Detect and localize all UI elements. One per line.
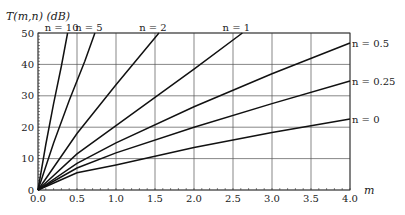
y-tick-label: 20: [21, 122, 34, 133]
x-tick-label: 2.5: [225, 193, 241, 204]
y-tick-label: 30: [21, 90, 34, 101]
series-label: n = 10: [45, 22, 79, 33]
axes: 0.00.51.01.52.02.53.03.54.001020304050: [21, 28, 358, 205]
y-axis-label: T(m,n) (dB): [6, 10, 70, 23]
series-line-2: [38, 33, 159, 190]
x-tick-label: 2.0: [186, 193, 202, 204]
x-tick-label: 4.0: [342, 193, 358, 204]
series-label: n = 5: [75, 22, 103, 33]
y-tick-label: 40: [21, 59, 34, 70]
x-tick-label: 3.0: [264, 193, 280, 204]
x-tick-label: 1.5: [147, 193, 163, 204]
grid: [38, 33, 350, 190]
y-tick-label: 50: [21, 28, 34, 39]
series-line-5: [38, 33, 95, 190]
x-tick-label: 1.0: [108, 193, 124, 204]
series-label: n = 0.25: [352, 76, 395, 87]
x-tick-label: 0.5: [69, 193, 85, 204]
series-label: n = 1: [223, 22, 251, 33]
y-tick-label: 10: [21, 153, 34, 164]
series-label: n = 2: [139, 22, 167, 33]
y-tick-label: 0: [28, 185, 34, 196]
x-tick-label: 3.5: [303, 193, 319, 204]
series-label: n = 0.5: [352, 38, 389, 49]
x-axis-label: m: [364, 184, 374, 197]
series-label: n = 0: [352, 114, 380, 125]
line-chart: 0.00.51.01.52.02.53.03.54.001020304050 n…: [0, 0, 405, 215]
